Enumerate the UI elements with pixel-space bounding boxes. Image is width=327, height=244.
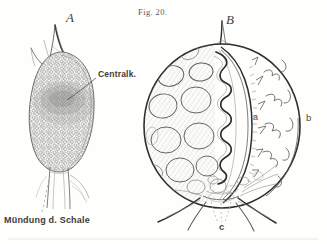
figure-b-group xyxy=(140,21,300,231)
figure-b-part-c-label: c xyxy=(219,222,224,232)
figure-a-label: A xyxy=(66,11,74,24)
figure-b-label: B xyxy=(226,13,234,26)
figure-a-lateral-spine xyxy=(31,48,42,66)
muendung-label: Mündung d. Schale xyxy=(4,216,90,225)
figure-plate xyxy=(0,0,327,244)
figure-b-part-a-label: a xyxy=(253,113,258,122)
centralkapsel-label: Centralk. xyxy=(98,70,136,79)
figure-b-part-b-label: b xyxy=(306,113,311,123)
muendung-leader-line xyxy=(42,176,50,212)
figure-a-group xyxy=(22,25,102,212)
figure-a-basal-tube xyxy=(36,167,89,209)
figure-caption: Fig. 20. xyxy=(138,8,167,17)
figure-a-stipple-texture xyxy=(22,45,102,180)
